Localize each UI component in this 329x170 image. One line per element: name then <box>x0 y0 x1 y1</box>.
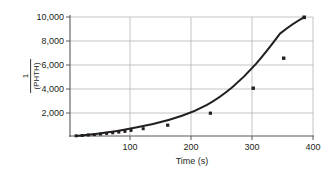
data-point <box>105 132 108 135</box>
data-point <box>252 87 255 90</box>
x-tick-label-100: 100 <box>122 142 137 152</box>
x-tick-label-200: 200 <box>183 142 198 152</box>
y-tick-label-2000: 2,000 <box>41 108 64 118</box>
x-axis-title: Time (s) <box>176 156 209 166</box>
data-point <box>209 112 212 115</box>
data-point <box>75 134 78 137</box>
data-point <box>81 134 84 137</box>
y-axis-title-numerator: 1 <box>21 73 30 78</box>
data-point <box>130 129 133 132</box>
data-point <box>111 131 114 134</box>
data-point <box>99 133 102 136</box>
data-point <box>142 127 145 130</box>
chart-figure: 10,000 8,000 6,000 4,000 2,000 100 200 3… <box>0 0 329 170</box>
data-point <box>166 124 169 127</box>
x-tick-label-400: 400 <box>305 142 320 152</box>
data-point <box>87 134 90 137</box>
y-tick-label-10000: 10,000 <box>36 12 64 22</box>
y-tick-label-8000: 8,000 <box>41 36 64 46</box>
y-tick-label-6000: 6,000 <box>41 60 64 70</box>
y-tick-label-4000: 4,000 <box>41 84 64 94</box>
data-point <box>117 131 120 134</box>
y-axis-title-denominator: (PHTH) <box>32 62 41 89</box>
data-point <box>282 57 285 60</box>
data-point <box>93 133 96 136</box>
kinetics-scatter-chart: 10,000 8,000 6,000 4,000 2,000 100 200 3… <box>0 0 329 170</box>
data-point <box>302 16 306 20</box>
x-tick-label-300: 300 <box>244 142 259 152</box>
data-point <box>123 130 126 133</box>
